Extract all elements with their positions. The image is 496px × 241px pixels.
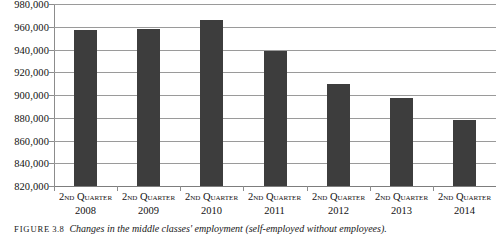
y-axis-tick-label: 840,000: [14, 158, 49, 169]
x-axis-category: 2nd Quarter2008: [54, 190, 117, 217]
bar-chart: 980,000960,000940,000920,000900,000880,0…: [0, 0, 496, 190]
caption-label: Figure: [14, 224, 50, 234]
plot-canvas: [54, 4, 496, 186]
x-axis-category: 2nd Quarter2014: [433, 190, 496, 217]
x-axis-category: 2nd Quarter2009: [117, 190, 180, 217]
category-quarter-label: 2nd Quarter: [433, 190, 496, 204]
category-year-label: 2009: [117, 204, 180, 218]
x-axis-category: 2nd Quarter2011: [243, 190, 306, 217]
y-axis-tick-mark: [49, 95, 54, 96]
caption-text: Changes in the middle classes' employmen…: [69, 223, 386, 234]
y-axis-tick-mark: [49, 163, 54, 164]
bars-series: [54, 4, 496, 186]
bar: [390, 98, 413, 186]
y-axis-tick-mark: [49, 50, 54, 51]
category-year-label: 2012: [307, 204, 370, 218]
x-axis-category: 2nd Quarter2012: [307, 190, 370, 217]
bar: [74, 30, 97, 186]
bar: [327, 84, 350, 186]
category-year-label: 2010: [180, 204, 243, 218]
category-year-label: 2011: [243, 204, 306, 218]
category-quarter-label: 2nd Quarter: [180, 190, 243, 204]
bar: [264, 51, 287, 186]
x-axis-category-labels: 2nd Quarter20082nd Quarter20092nd Quarte…: [54, 190, 496, 220]
y-axis-tick-mark: [49, 27, 54, 28]
y-axis-tick-label: 940,000: [14, 44, 49, 55]
category-quarter-label: 2nd Quarter: [243, 190, 306, 204]
y-axis-tick-mark: [49, 141, 54, 142]
bar: [200, 20, 223, 186]
bar: [137, 29, 160, 186]
y-axis-tick-mark: [49, 4, 54, 5]
figure-caption: Figure3.8Changes in the middle classes' …: [14, 222, 492, 236]
category-quarter-label: 2nd Quarter: [54, 190, 117, 204]
category-year-label: 2008: [54, 204, 117, 218]
y-axis-tick-mark: [49, 186, 54, 187]
y-axis-tick-label: 960,000: [14, 21, 49, 32]
category-quarter-label: 2nd Quarter: [117, 190, 180, 204]
category-quarter-label: 2nd Quarter: [307, 190, 370, 204]
y-axis-tick-labels: 980,000960,000940,000920,000900,000880,0…: [0, 0, 54, 190]
y-axis-tick-mark: [49, 118, 54, 119]
figure-container: 980,000960,000940,000920,000900,000880,0…: [0, 0, 496, 241]
y-axis-tick-label: 820,000: [14, 181, 49, 192]
bar: [453, 120, 476, 186]
category-quarter-label: 2nd Quarter: [370, 190, 433, 204]
y-axis-tick-label: 860,000: [14, 135, 49, 146]
category-year-label: 2014: [433, 204, 496, 218]
x-axis-category: 2nd Quarter2013: [370, 190, 433, 217]
y-axis-tick-label: 980,000: [14, 0, 49, 10]
y-axis-tick-label: 880,000: [14, 112, 49, 123]
y-axis-tick-mark: [49, 72, 54, 73]
x-axis-category: 2nd Quarter2010: [180, 190, 243, 217]
y-axis-tick-label: 900,000: [14, 90, 49, 101]
category-year-label: 2013: [370, 204, 433, 218]
y-axis-tick-label: 920,000: [14, 67, 49, 78]
caption-number: 3.8: [52, 224, 64, 234]
